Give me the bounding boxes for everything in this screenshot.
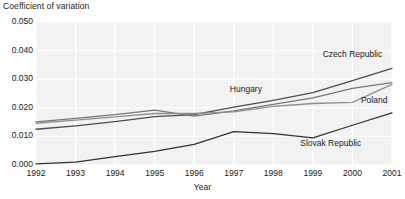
series-label-hungary: Hungary xyxy=(230,85,262,94)
series-labels-layer: Czech RepublicHungaryPolandSlovak Republ… xyxy=(0,0,405,199)
chart-container: Coefficient of variation 0.0500.0400.030… xyxy=(0,0,405,199)
series-label-slovak-republic: Slovak Republic xyxy=(300,139,361,148)
series-label-poland: Poland xyxy=(361,96,387,105)
x-axis-title: Year xyxy=(0,182,405,192)
series-label-czech-republic: Czech Republic xyxy=(323,50,383,59)
